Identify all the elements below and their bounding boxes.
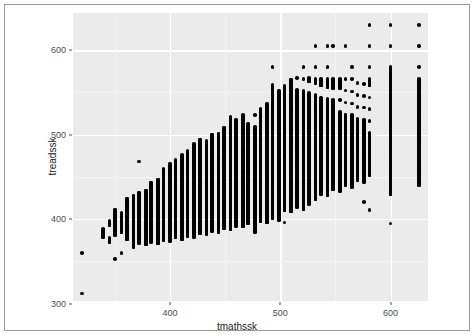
gridline-minor-horizontal [73,92,428,93]
data-point [338,98,342,102]
data-point [389,65,393,69]
data-point [389,44,393,48]
data-point [368,44,372,48]
data-point [319,96,323,100]
data-point [113,208,117,212]
gridline-major-horizontal [73,135,428,136]
data-point [314,44,318,48]
data-point [314,77,318,81]
data-point [253,113,257,117]
data-point [192,142,196,146]
data-point [137,191,141,195]
y-tick-mark [69,50,72,51]
data-point [271,83,275,87]
data-point [125,197,129,201]
data-point [222,126,226,130]
data-point [344,77,348,81]
y-tick-label: 300 [51,299,66,309]
data-point [113,257,117,261]
data-point [331,44,335,48]
scatter-plot-figure: 300400500600 400500600 treadssk tmathssk [0,0,474,335]
data-point [417,65,421,69]
data-point [368,23,372,27]
data-point [253,125,257,129]
data-point [417,77,421,81]
data-point [144,189,148,193]
data-point [350,102,354,106]
data-point [319,77,323,81]
x-tick-label: 500 [273,308,288,318]
data-point [217,132,221,136]
data-point [389,23,393,27]
data-point [368,119,372,123]
y-axis-title: treadssk [47,122,58,192]
data-point [80,292,84,296]
data-point [356,81,360,85]
y-tick-label: 400 [51,214,66,224]
data-point [344,101,348,105]
data-point [338,77,342,81]
x-axis-title: tmathssk [0,321,474,332]
data-point [362,200,366,204]
data-point [331,98,335,102]
data-point [368,208,372,212]
data-point [295,88,299,92]
data-point [234,118,238,122]
data-point [368,96,372,100]
gridline-minor-vertical [335,13,336,301]
data-point [307,91,311,95]
data-point [368,65,372,69]
data-point [362,94,366,98]
data-point [80,251,84,255]
data-point [368,107,372,111]
data-point [350,77,354,81]
data-point [295,76,299,80]
data-point [417,44,421,48]
data-point [368,77,372,81]
data-point [168,162,172,166]
x-tick-mark [170,302,171,305]
y-tick-mark [69,134,72,135]
data-point [356,105,360,109]
data-point [314,65,318,69]
data-point [338,110,342,114]
data-point [271,65,275,69]
data-point [307,76,311,80]
data-point [241,113,245,117]
gridline-minor-horizontal [73,261,428,262]
data-point [350,113,354,117]
data-point [108,219,112,223]
data-point [156,178,160,182]
gridline-major-vertical [170,13,171,301]
data-point [326,65,330,69]
data-point [356,93,360,97]
data-point [180,153,184,157]
data-point [368,131,372,135]
gridline-major-horizontal [73,50,428,51]
data-point [265,102,269,106]
data-point [149,181,153,185]
data-point [417,23,421,27]
data-point [350,90,354,94]
x-tick-label: 600 [383,308,398,318]
data-point [362,82,366,86]
data-point [137,160,141,164]
data-point [314,93,318,97]
gridline-minor-horizontal [73,177,428,178]
data-point [289,78,293,82]
data-point [302,77,306,81]
data-point [362,106,366,110]
x-tick-mark [280,302,281,305]
data-point [120,251,124,255]
data-point [283,221,287,225]
data-point [302,65,306,69]
data-point [350,65,354,69]
plot-panel [73,13,428,301]
y-tick-label: 600 [51,45,66,55]
y-tick-mark [69,219,72,220]
data-point [101,227,105,231]
data-point [326,44,330,48]
data-point [174,158,178,162]
x-tick-label: 400 [163,308,178,318]
y-tick-mark [69,303,72,304]
